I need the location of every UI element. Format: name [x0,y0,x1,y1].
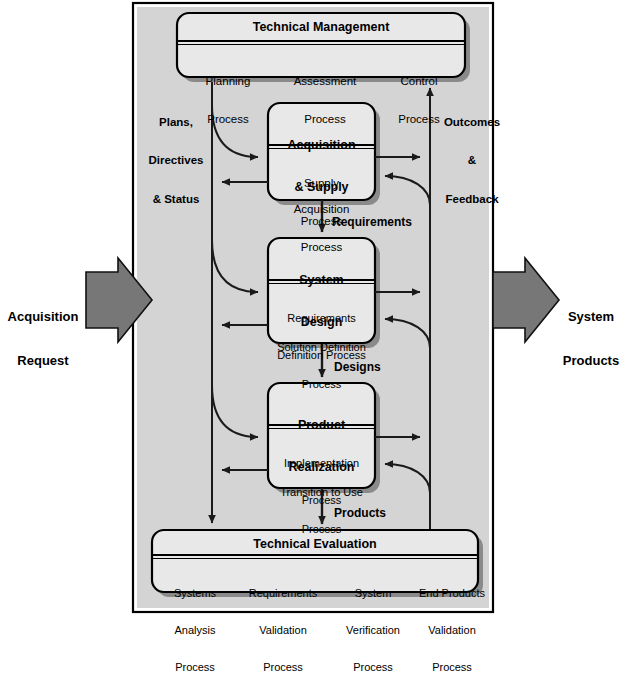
sys-analysis-line3: Process [155,661,235,673]
technical-evaluation-box[interactable] [152,530,483,597]
req-validation-line3: Process [235,661,331,673]
system-products-arrow [493,258,559,342]
end-products-line3: Process [408,661,496,673]
sys-verification-line3: Process [328,661,418,673]
acquisition-and-supply-box[interactable] [268,103,380,205]
system-design-box[interactable] [268,238,380,348]
product-realization-box[interactable] [268,383,380,493]
technical-management-box[interactable] [177,13,470,82]
